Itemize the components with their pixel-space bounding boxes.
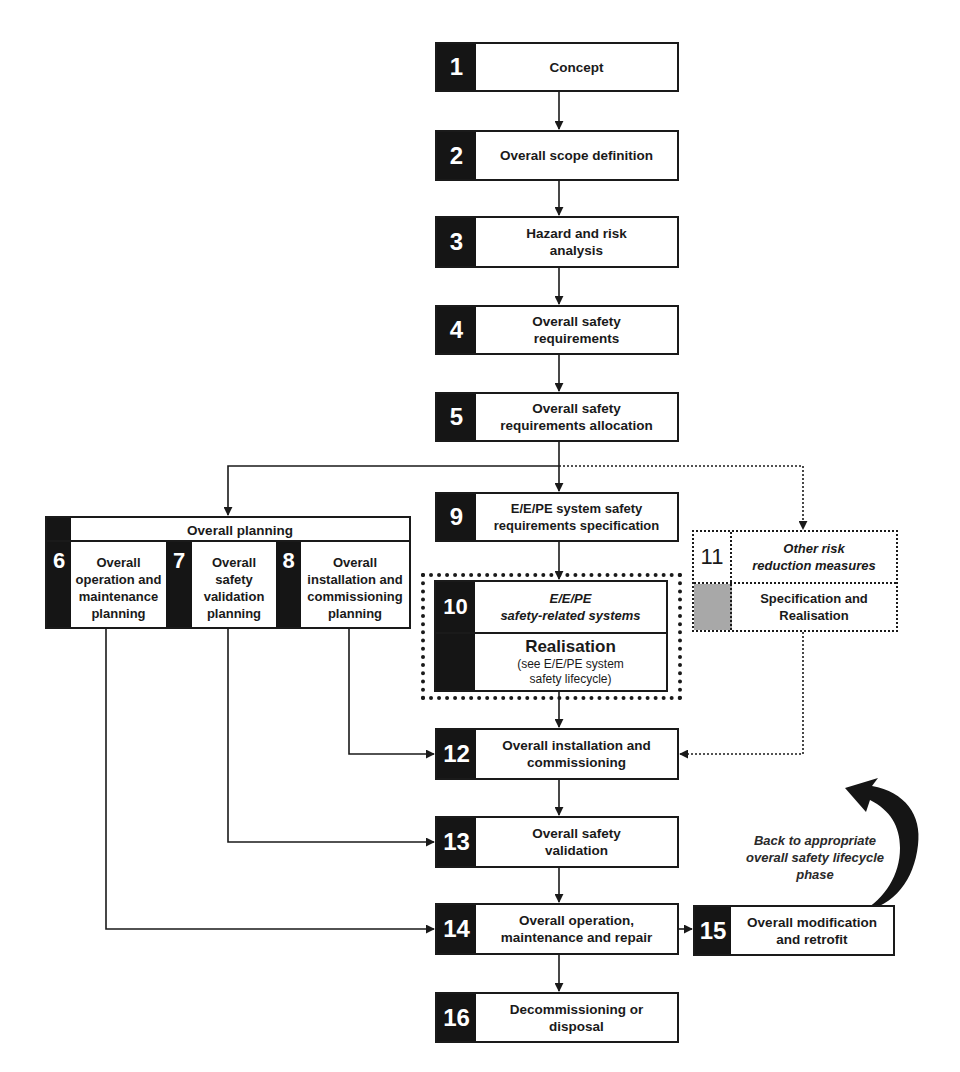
phase-11-specification: Specification andRealisation: [694, 584, 896, 630]
phase-number: 12: [437, 730, 476, 778]
back-to-phase-annotation: Back to appropriate overall safety lifec…: [700, 832, 930, 883]
planning-header-cell: [47, 518, 71, 542]
phase-number: 10: [436, 582, 475, 632]
phase-number: 1: [437, 44, 476, 90]
phase-number: 9: [437, 494, 476, 540]
phase-label: E/E/PE system safetyrequirements specifi…: [476, 494, 677, 540]
phase-number-8: 8: [276, 542, 301, 627]
planning-title: Overall planning: [71, 518, 409, 542]
annotation-line: Back to appropriate: [700, 832, 930, 849]
phase-6-operation-maintenance-planning: Overalloperation and maintenanceplanning: [71, 542, 166, 627]
phase-label: Hazard and riskanalysis: [476, 218, 677, 266]
phase-15-modification-retrofit: 15 Overall modificationand retrofit: [693, 905, 895, 956]
arrow-11-to-12-dotted: [680, 632, 803, 754]
phase-11-header: 11 Other riskreduction measures: [694, 532, 896, 584]
phase-9-system-safety-requirements: 9 E/E/PE system safetyrequirements speci…: [435, 492, 679, 542]
phase-10-realisation-cell: [436, 634, 475, 690]
phase-number: 5: [437, 394, 476, 440]
phase-8-installation-commissioning-planning: Overallinstallation and commissioningpla…: [301, 542, 409, 627]
phase-10-title: E/E/PEsafety-related systems: [475, 582, 666, 632]
phase-16-decommissioning: 16 Decommissioning ordisposal: [435, 992, 679, 1043]
phase-number: 3: [437, 218, 476, 266]
arrow-6-to-14: [106, 629, 434, 929]
planning-header: Overall planning: [45, 516, 411, 542]
realisation-text: Realisation (see E/E/PE systemsafety lif…: [475, 634, 666, 690]
phase-10-header: 10 E/E/PEsafety-related systems: [436, 582, 666, 634]
phase-label: Concept: [476, 44, 677, 90]
phase-number: 11: [694, 532, 732, 582]
phase-number: 13: [437, 818, 476, 866]
phase-number: 4: [437, 307, 476, 353]
arrow-7-to-13: [228, 629, 434, 842]
phase-10-realisation: Realisation (see E/E/PE systemsafety lif…: [436, 634, 666, 690]
phase-label: Overall scope definition: [476, 132, 677, 179]
phase-number: 15: [695, 907, 731, 954]
phase-10-safety-related-systems: 10 E/E/PEsafety-related systems Realisat…: [434, 580, 668, 692]
phase-13-safety-validation: 13 Overall safetyvalidation: [435, 816, 679, 868]
phase-number-6: 6: [47, 542, 71, 627]
planning-body: 6 Overalloperation and maintenanceplanni…: [45, 540, 411, 629]
phase-2-scope: 2 Overall scope definition: [435, 130, 679, 181]
phase-12-installation-commissioning: 12 Overall installation andcommissioning: [435, 728, 679, 780]
phase-4-safety-requirements: 4 Overall safetyrequirements: [435, 305, 679, 355]
phase-number: 2: [437, 132, 476, 179]
gray-cell: [694, 584, 732, 630]
phase-number: 16: [437, 994, 476, 1041]
phase-1-concept: 1 Concept: [435, 42, 679, 92]
phase-label: Overall modificationand retrofit: [731, 907, 893, 954]
phase-number: 14: [437, 905, 476, 953]
phase-label: Overall safetyrequirements: [476, 307, 677, 353]
phase-11-title: Other riskreduction measures: [732, 532, 896, 582]
annotation-line: phase: [700, 866, 930, 883]
annotation-line: overall safety lifecycle: [700, 849, 930, 866]
phase-11-other-risk-reduction: 11 Other riskreduction measures Specific…: [692, 530, 898, 632]
phase-5-requirements-allocation: 5 Overall safetyrequirements allocation: [435, 392, 679, 442]
phase-label: Overall safetyrequirements allocation: [476, 394, 677, 440]
phase-7-safety-validation-planning: Overallsafety validationplanning: [192, 542, 276, 627]
phase-label: Overall safetyvalidation: [476, 818, 677, 866]
phase-number-7: 7: [166, 542, 192, 627]
phase-11-sub: Specification andRealisation: [732, 584, 896, 630]
phase-3-hazard-risk: 3 Hazard and riskanalysis: [435, 216, 679, 268]
phase-label: Decommissioning ordisposal: [476, 994, 677, 1041]
realisation-title: Realisation: [525, 637, 616, 657]
phase-label: Overall installation andcommissioning: [476, 730, 677, 778]
phase-14-operation-maintenance: 14 Overall operation,maintenance and rep…: [435, 903, 679, 955]
phase-label: Overall operation,maintenance and repair: [476, 905, 677, 953]
